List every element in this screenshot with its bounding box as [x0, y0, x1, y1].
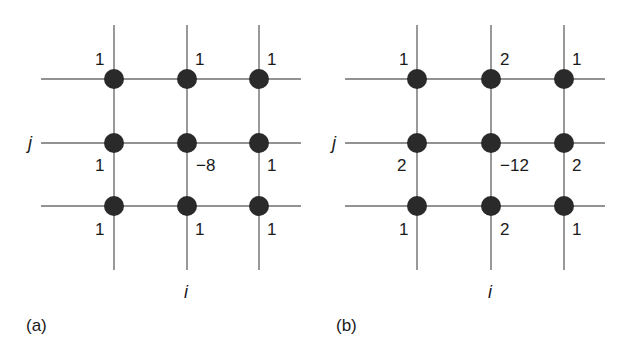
grid-node — [407, 133, 427, 153]
panel-tag-a: (a) — [26, 317, 47, 334]
weight-label: 1 — [95, 157, 104, 174]
axis-label-i: i — [488, 283, 492, 301]
center-weight-label: −8 — [196, 157, 215, 174]
grid-node — [177, 69, 197, 89]
weight-label: 1 — [399, 51, 408, 68]
weight-label: 1 — [572, 221, 581, 238]
panel-b: 1 2 1 2 −12 2 1 2 1 j i (b) — [310, 0, 622, 363]
panel-tag-b: (b) — [336, 317, 357, 334]
grid-node — [104, 69, 124, 89]
grid-node — [407, 69, 427, 89]
grid-node — [481, 133, 501, 153]
grid-node — [481, 69, 501, 89]
axis-label-i: i — [184, 283, 188, 301]
grid-stencil-a — [0, 0, 312, 363]
axis-label-j: j — [28, 134, 32, 152]
weight-label: 1 — [267, 51, 276, 68]
weight-label: 1 — [195, 51, 204, 68]
grid-node — [554, 69, 574, 89]
weight-label: 2 — [500, 51, 509, 68]
weight-label: 1 — [195, 221, 204, 238]
grid-node — [177, 196, 197, 216]
grid-node — [407, 196, 427, 216]
weight-label: 2 — [500, 221, 509, 238]
weight-label: 1 — [267, 221, 276, 238]
center-weight-label: −12 — [500, 157, 529, 174]
grid-node — [554, 196, 574, 216]
weight-label: 2 — [397, 157, 406, 174]
grid-node — [104, 196, 124, 216]
grid-node — [249, 69, 269, 89]
grid-node — [177, 133, 197, 153]
axis-label-j: j — [332, 134, 336, 152]
grid-node — [249, 133, 269, 153]
weight-label: 2 — [572, 157, 581, 174]
grid-node — [249, 196, 269, 216]
grid-node — [481, 196, 501, 216]
weight-label: 1 — [572, 51, 581, 68]
weight-label: 1 — [399, 221, 408, 238]
weight-label: 1 — [95, 221, 104, 238]
weight-label: 1 — [95, 51, 104, 68]
grid-node — [104, 133, 124, 153]
weight-label: 1 — [267, 157, 276, 174]
panel-a: 1 1 1 1 −8 1 1 1 1 j i (a) — [0, 0, 312, 363]
grid-node — [554, 133, 574, 153]
